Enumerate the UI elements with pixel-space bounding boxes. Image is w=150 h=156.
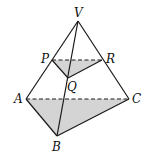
- label-p: P: [40, 52, 50, 66]
- label-q: Q: [67, 80, 77, 94]
- label-a: A: [13, 92, 23, 106]
- label-r: R: [105, 52, 115, 66]
- label-v: V: [74, 6, 84, 20]
- label-b: B: [51, 140, 61, 154]
- pyramid-diagram: V P R Q A C B: [0, 0, 150, 156]
- label-c: C: [132, 92, 141, 106]
